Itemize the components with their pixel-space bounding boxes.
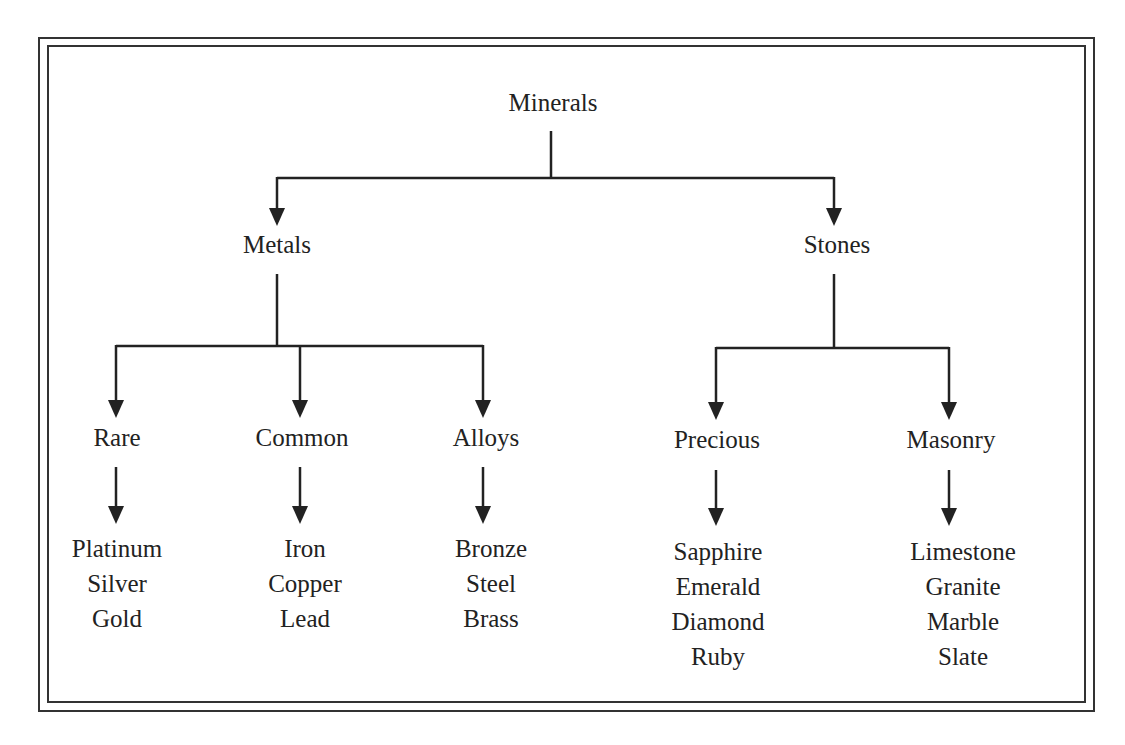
leaf-item: Silver [72, 566, 162, 601]
leaf-list-precious: Sapphire Emerald Diamond Ruby [671, 534, 764, 674]
arrow-icon [108, 506, 124, 524]
leaf-item: Limestone [910, 534, 1016, 569]
leaf-list-masonry: Limestone Granite Marble Slate [910, 534, 1016, 674]
leaf-item: Marble [910, 604, 1016, 639]
arrow-icon [826, 208, 842, 226]
arrow-icon [108, 400, 124, 418]
leaf-item: Sapphire [671, 534, 764, 569]
node-minerals: Minerals [509, 86, 598, 120]
leaf-item: Granite [910, 569, 1016, 604]
arrow-icon [269, 208, 285, 226]
leaf-item: Gold [72, 601, 162, 636]
node-stones: Stones [804, 228, 871, 262]
leaf-item: Lead [268, 601, 342, 636]
leaf-item: Diamond [671, 604, 764, 639]
arrow-icon [708, 402, 724, 420]
arrow-icon [708, 508, 724, 526]
arrow-icon [292, 506, 308, 524]
node-masonry: Masonry [907, 423, 996, 457]
leaf-item: Steel [455, 566, 527, 601]
leaf-list-common: Iron Copper Lead [268, 531, 342, 636]
leaf-item: Ruby [671, 639, 764, 674]
leaf-item: Platinum [72, 531, 162, 566]
node-rare: Rare [93, 421, 140, 455]
node-precious: Precious [674, 423, 760, 457]
node-common: Common [255, 421, 348, 455]
leaf-item: Brass [455, 601, 527, 636]
leaf-item: Slate [910, 639, 1016, 674]
leaf-item: Copper [268, 566, 342, 601]
arrow-icon [292, 400, 308, 418]
leaf-list-rare: Platinum Silver Gold [72, 531, 162, 636]
leaf-item: Iron [268, 531, 342, 566]
arrow-icon [475, 400, 491, 418]
leaf-item: Emerald [671, 569, 764, 604]
arrow-icon [941, 402, 957, 420]
leaf-list-alloys: Bronze Steel Brass [455, 531, 527, 636]
node-alloys: Alloys [453, 421, 520, 455]
node-metals: Metals [243, 228, 311, 262]
leaf-item: Bronze [455, 531, 527, 566]
arrow-icon [475, 506, 491, 524]
arrow-icon [941, 508, 957, 526]
